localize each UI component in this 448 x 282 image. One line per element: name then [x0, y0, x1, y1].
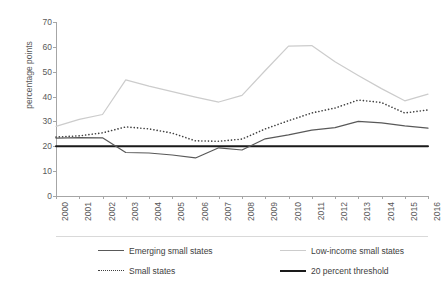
- x-tick-label: 2005: [176, 202, 186, 221]
- x-tick-mark: [242, 196, 243, 199]
- y-tick-label: 30: [43, 116, 52, 126]
- legend-item[interactable]: Small states: [56, 261, 242, 281]
- series-line: [56, 46, 428, 127]
- x-tick-mark: [358, 196, 359, 199]
- x-tick-mark: [382, 196, 383, 199]
- x-tick-label: 2015: [409, 202, 419, 221]
- x-tick-mark: [312, 196, 313, 199]
- series-lines: [56, 22, 428, 196]
- x-tick-label: 2016: [432, 202, 442, 221]
- x-tick-label: 2009: [269, 202, 279, 221]
- x-tick-label: 2008: [246, 202, 256, 221]
- x-tick-label: 2010: [293, 202, 303, 221]
- x-tick-label: 2011: [316, 202, 326, 220]
- legend-swatch-icon: [98, 270, 124, 271]
- x-tick-mark: [428, 196, 429, 199]
- x-tick-mark: [196, 196, 197, 199]
- x-tick-mark: [335, 196, 336, 199]
- legend-label: Emerging small states: [129, 246, 213, 256]
- x-tick-mark: [79, 196, 80, 199]
- x-tick-label: 2014: [386, 202, 396, 221]
- x-tick-label: 2002: [107, 202, 117, 221]
- y-tick-label: 60: [43, 42, 52, 52]
- legend-item[interactable]: Low-income small states: [242, 241, 428, 261]
- y-axis-title: percentage points: [24, 0, 34, 150]
- x-tick-mark: [103, 196, 104, 199]
- x-tick-label: 2000: [60, 202, 70, 221]
- y-tick-label: 50: [43, 67, 52, 77]
- x-tick-mark: [56, 196, 57, 199]
- plot-area: 010203040506070 200020012002200320042005…: [56, 22, 428, 196]
- legend-item[interactable]: Emerging small states: [56, 241, 242, 261]
- legend-item[interactable]: 20 percent threshold: [242, 261, 428, 281]
- x-tick-mark: [265, 196, 266, 199]
- legend-label: Small states: [129, 266, 175, 276]
- x-tick-label: 2012: [339, 202, 349, 221]
- x-tick-mark: [405, 196, 406, 199]
- y-tick-label: 70: [43, 17, 52, 27]
- y-tick-label: 0: [47, 191, 52, 201]
- chart-legend: Emerging small statesLow-income small st…: [56, 236, 428, 278]
- y-tick-label: 40: [43, 92, 52, 102]
- legend-swatch-icon: [98, 250, 124, 251]
- legend-swatch-icon: [280, 250, 306, 251]
- x-tick-mark: [289, 196, 290, 199]
- x-tick-label: 2006: [200, 202, 210, 221]
- chart-container: percentage points 010203040506070 200020…: [0, 0, 448, 282]
- x-tick-mark: [172, 196, 173, 199]
- x-tick-mark: [126, 196, 127, 199]
- x-tick-label: 2007: [223, 202, 233, 221]
- x-tick-mark: [149, 196, 150, 199]
- x-tick-label: 2013: [362, 202, 372, 221]
- legend-swatch-icon: [280, 270, 306, 272]
- legend-label: 20 percent threshold: [311, 266, 389, 276]
- legend-label: Low-income small states: [311, 246, 404, 256]
- x-tick-mark: [219, 196, 220, 199]
- y-tick-label: 10: [43, 166, 52, 176]
- x-tick-label: 2003: [130, 202, 140, 221]
- series-line: [56, 100, 428, 141]
- x-tick-label: 2001: [83, 202, 93, 221]
- y-tick-label: 20: [43, 141, 52, 151]
- x-tick-label: 2004: [153, 202, 163, 221]
- series-line: [56, 121, 428, 158]
